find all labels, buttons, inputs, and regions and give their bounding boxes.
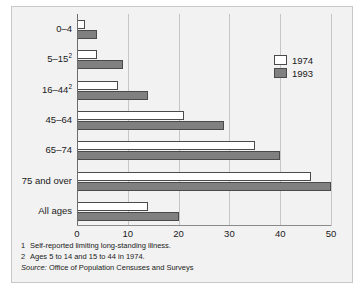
footnotes-block: 1Self-reported limiting long-standing il… <box>21 240 341 273</box>
gridline-50 <box>331 14 332 226</box>
bar-group <box>77 80 331 100</box>
bar-1993 <box>77 212 179 221</box>
footnote-1: 1Self-reported limiting long-standing il… <box>21 240 341 251</box>
chart-legend: 1974 1993 <box>274 54 330 80</box>
category-label: 45–64 <box>46 115 72 125</box>
xtick-label-0: 0 <box>74 228 79 239</box>
legend-item-1993: 1993 <box>274 67 330 79</box>
xtick-label-30: 30 <box>224 228 235 239</box>
category-label: 16–442 <box>42 85 72 95</box>
xtick-label-40: 40 <box>275 228 286 239</box>
footnote-1-marker: 1 <box>21 240 30 251</box>
bar-1993 <box>77 151 280 160</box>
footnote-2-text: Ages 5 to 14 and 15 to 44 in 1974. <box>30 252 145 261</box>
bar-1974 <box>77 202 148 211</box>
legend-label-1974: 1974 <box>292 55 313 66</box>
white-swatch-icon <box>274 55 287 65</box>
category-label: 0–4 <box>56 24 72 34</box>
value-axis-baseline <box>77 14 78 226</box>
legend-label-1993: 1993 <box>292 68 313 79</box>
source-text: Office of Population Censuses and Survey… <box>49 263 194 272</box>
bar-1974 <box>77 111 184 120</box>
bar-group <box>77 19 331 39</box>
bar-1993 <box>77 121 224 130</box>
bar-1974 <box>77 141 255 150</box>
category-label: 5–152 <box>47 54 72 64</box>
footnote-1-text: Self-reported limiting long-standing ill… <box>30 241 171 250</box>
bar-1993 <box>77 91 148 100</box>
chart-figure: 0–45–15216–44245–6465–7475 and overAll a… <box>0 0 364 290</box>
footnote-2-marker: 2 <box>21 251 30 262</box>
bar-1974 <box>77 172 311 181</box>
category-label: 75 and over <box>22 176 72 186</box>
footnote-marker: 2 <box>68 83 72 90</box>
bar-group <box>77 201 331 221</box>
xtick-label-10: 10 <box>123 228 134 239</box>
bar-1993 <box>77 30 97 39</box>
bar-group <box>77 140 331 160</box>
source-note: Source: Office of Population Censuses an… <box>21 262 341 273</box>
footnote-marker: 2 <box>68 52 72 59</box>
category-axis-line <box>77 225 331 226</box>
xtick-label-20: 20 <box>173 228 184 239</box>
xtick-label-50: 50 <box>326 228 337 239</box>
bar-1974 <box>77 81 118 90</box>
category-axis-labels: 0–45–15216–44245–6465–7475 and overAll a… <box>0 14 72 226</box>
bar-1993 <box>77 182 331 191</box>
bar-group <box>77 110 331 130</box>
gray-swatch-icon <box>274 68 287 78</box>
footnote-2: 2Ages 5 to 14 and 15 to 44 in 1974. <box>21 251 341 262</box>
plot-area <box>77 14 331 226</box>
bar-1974 <box>77 50 97 59</box>
legend-item-1974: 1974 <box>274 54 330 66</box>
category-label: 65–74 <box>46 145 72 155</box>
bar-1993 <box>77 60 123 69</box>
source-label: Source: <box>21 263 47 272</box>
bar-group <box>77 171 331 191</box>
category-label: All ages <box>38 206 72 216</box>
bar-1974 <box>77 20 85 29</box>
